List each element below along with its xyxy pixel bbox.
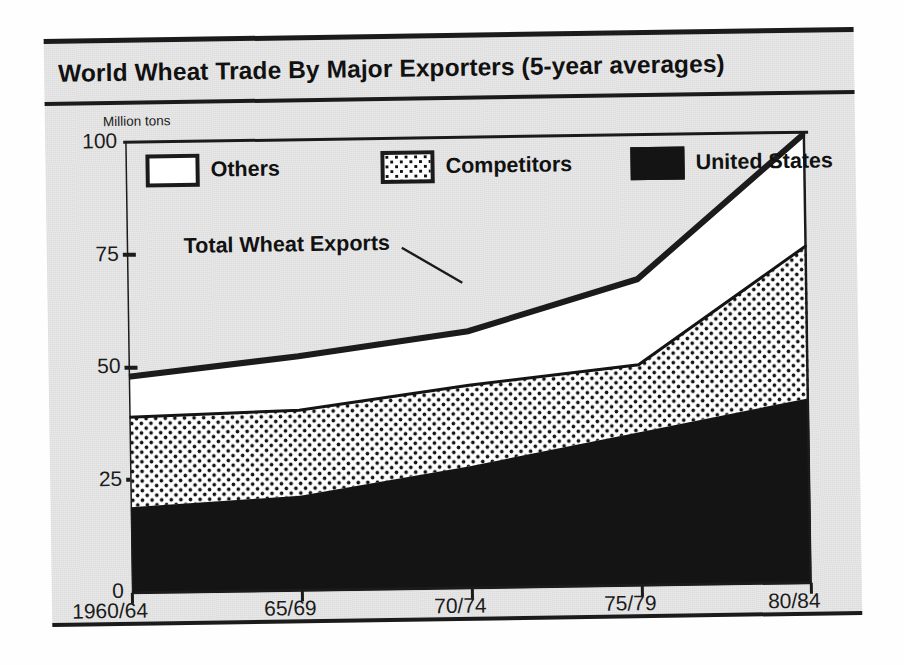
- chart-title: World Wheat Trade By Major Exporters (5-…: [58, 50, 725, 88]
- annotation-leader-line: [402, 243, 473, 289]
- chart-figure-box: World Wheat Trade By Major Exporters (5-…: [44, 27, 863, 627]
- stacked-area-chart-svg: [125, 133, 812, 595]
- legend-item-others[interactable]: Others: [145, 153, 280, 188]
- y-tick-label-75: 75: [67, 241, 119, 266]
- legend-swatch-competitors-icon: [380, 150, 434, 184]
- annotation-total-wheat-exports: Total Wheat Exports: [184, 231, 391, 259]
- x-tick-label-75-79: 75/79: [604, 591, 657, 616]
- figure-skew-wrapper: World Wheat Trade By Major Exporters (5-…: [0, 0, 904, 665]
- y-tick-label-100: 100: [65, 129, 117, 154]
- legend-label-united-states: United States: [695, 148, 833, 175]
- plot-area: [125, 133, 812, 593]
- x-tick-label-80-84: 80/84: [768, 589, 821, 614]
- legend-swatch-others-icon: [145, 154, 199, 188]
- x-tick-label-65-69: 65/69: [264, 596, 317, 621]
- y-axis-units-label: Million tons: [103, 113, 171, 129]
- scanned-page-background: World Wheat Trade By Major Exporters (5-…: [0, 0, 904, 665]
- legend-label-others: Others: [210, 157, 280, 183]
- legend-label-competitors: Competitors: [445, 152, 572, 179]
- title-divider-rule: [45, 90, 855, 106]
- legend-item-competitors[interactable]: Competitors: [380, 148, 572, 184]
- y-tick-label-25: 25: [70, 466, 122, 491]
- x-tick-label-1960-64: 1960/64: [72, 599, 148, 624]
- x-tick-label-70-74: 70/74: [434, 593, 487, 618]
- legend-item-united-states[interactable]: United States: [630, 144, 833, 180]
- y-tick-label-50: 50: [68, 354, 120, 379]
- legend-swatch-united-states-icon: [630, 147, 684, 181]
